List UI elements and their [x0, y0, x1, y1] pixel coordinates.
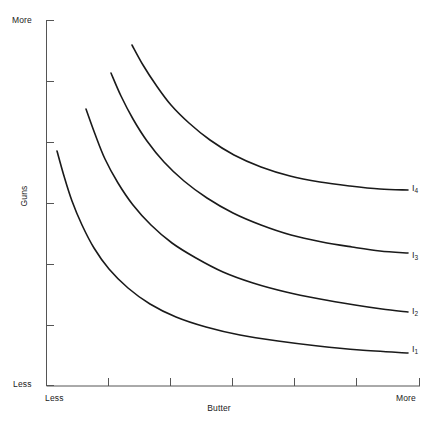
curve-label-i2-subscript: 2: [415, 310, 419, 317]
y-axis-more-label: More: [12, 16, 32, 25]
x-axis-more-label: More: [396, 394, 416, 403]
x-axis-title: Butter: [207, 404, 231, 413]
y-axis-ticks: [47, 21, 55, 386]
y-axis-less-label: Less: [13, 380, 32, 389]
curve-label-i2: I2: [412, 307, 418, 316]
curve-label-i4-subscript: 4: [415, 187, 419, 194]
curve-I2: [86, 109, 408, 312]
curves-group: [57, 45, 408, 353]
indifference-curve-chart: More Less Guns Less More Butter I4 I3 I2…: [0, 0, 437, 423]
curve-I4: [132, 45, 408, 190]
curve-label-i1: I1: [412, 345, 418, 354]
chart-canvas: [0, 0, 437, 423]
y-axis-title: Guns: [20, 186, 29, 207]
curve-label-i3-subscript: 3: [415, 254, 419, 261]
curve-label-i3: I3: [412, 251, 418, 260]
curve-I3: [111, 73, 408, 253]
curve-label-i4: I4: [412, 184, 418, 193]
curve-label-i1-subscript: 1: [415, 348, 419, 355]
x-axis-ticks: [47, 378, 420, 386]
curve-I1: [57, 151, 408, 353]
x-axis-less-label: Less: [45, 394, 64, 403]
